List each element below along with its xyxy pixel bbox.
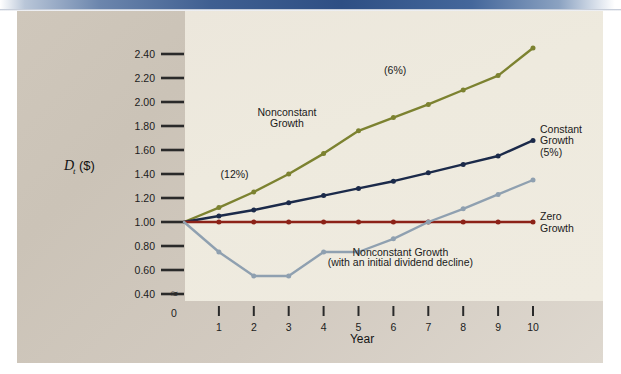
series-label-zero-growth: Zero: [540, 210, 562, 222]
series-data-point: [496, 192, 501, 197]
data-series: [184, 46, 536, 223]
x-axis-tick-label: 4: [321, 321, 327, 333]
series-data-point: [461, 220, 466, 225]
y-axis-title-units: ($): [79, 158, 95, 173]
series-data-point: [251, 208, 256, 213]
axis-break-symbol: ≈: [170, 286, 177, 301]
series-data-point: [321, 250, 326, 255]
series-data-point: [531, 138, 536, 143]
series-data-point: [321, 193, 326, 198]
series-data-point: [391, 236, 396, 241]
series-label-zero-growth: Growth: [540, 222, 574, 234]
chart-annotation-rate-12: (12%): [221, 168, 249, 180]
series-line: [184, 48, 533, 222]
x-axis-tick-label: 9: [495, 321, 501, 333]
series-data-point: [461, 206, 466, 211]
series-data-point: [531, 46, 536, 51]
series-data-point: [251, 274, 256, 279]
y-axis-tick-label: 1.20: [135, 192, 156, 204]
series-data-point: [531, 178, 536, 183]
x-axis-tick-label: 3: [286, 321, 292, 333]
series-data-point: [496, 73, 501, 78]
series-data-point: [286, 274, 291, 279]
series-data-point: [216, 220, 221, 225]
series-data-point: [461, 88, 466, 93]
x-axis-title: Year: [350, 332, 374, 346]
series-line: [184, 140, 533, 222]
x-axis-tick-label: 2: [251, 321, 257, 333]
series-data-point: [356, 128, 361, 133]
series-label-constant-growth: Growth: [540, 134, 574, 146]
series-data-point: [391, 179, 396, 184]
series-data-point: [391, 220, 396, 225]
x-axis-tick-labels: 12345678910: [216, 321, 539, 333]
y-axis-tick-label: 0.60: [135, 264, 156, 276]
y-axis-tick-label: 2.00: [135, 96, 156, 108]
series-data-point: [461, 162, 466, 167]
series-data-point: [286, 220, 291, 225]
series-data-point: [321, 151, 326, 156]
series-data-point: [426, 220, 431, 225]
annotation-layer: (12%)(6%)NonconstantGrowthNonconstant Gr…: [221, 64, 473, 267]
series-data-point: [356, 220, 361, 225]
series-data-point: [216, 205, 221, 210]
series-data-point: [496, 154, 501, 159]
x-axis-zero-label: 0: [171, 307, 177, 319]
series-data-point: [426, 170, 431, 175]
series-data-point: [356, 186, 361, 191]
series-data-point: [321, 220, 326, 225]
chart-annotation-decline-label-line2: (with an initial dividend decline): [328, 256, 473, 268]
series-data-point: [391, 115, 396, 120]
y-axis-tick-label: 2.40: [135, 48, 156, 60]
series-label-constant-growth: (5%): [540, 146, 562, 158]
y-axis-title: D t ($): [63, 158, 95, 176]
series-label-constant-growth: Constant: [540, 123, 582, 135]
y-axis-title-subscript: t: [73, 166, 76, 176]
x-axis-tick-label: 7: [425, 321, 431, 333]
series-data-point: [496, 220, 501, 225]
x-axis-tick-label: 1: [216, 321, 222, 333]
y-axis-tick-label: 1.60: [135, 144, 156, 156]
y-axis-tick-label: 0.80: [135, 240, 156, 252]
chart-annotation-nonconstant-growth-label-line2: Growth: [270, 117, 304, 129]
y-axis-tick-label: 0.40: [135, 288, 156, 300]
series-data-point: [216, 214, 221, 219]
slide-canvas: 2.402.202.001.801.601.401.201.000.800.60…: [0, 0, 621, 374]
data-series: [184, 220, 536, 225]
series-data-point: [531, 220, 536, 225]
y-axis-tick-label: 1.40: [135, 168, 156, 180]
x-axis-tick-label: 6: [390, 321, 396, 333]
series-data-point: [286, 172, 291, 177]
y-axis-tick-marks: [161, 54, 184, 294]
chart-annotation-rate-6: (6%): [384, 64, 406, 76]
y-axis-tick-label: 2.20: [135, 72, 156, 84]
series-data-point: [251, 190, 256, 195]
x-axis-tick-label: 10: [527, 321, 539, 333]
series-data-point: [216, 250, 221, 255]
dividend-growth-line-chart: 2.402.202.001.801.601.401.201.000.800.60…: [0, 0, 621, 374]
x-axis-tick-marks: [219, 306, 533, 316]
series-label-layer: ConstantGrowth(5%)ZeroGrowth: [540, 123, 582, 234]
series-data-point: [251, 220, 256, 225]
x-axis-tick-label: 8: [460, 321, 466, 333]
y-axis-tick-label: 1.00: [135, 216, 156, 228]
series-data-point: [286, 200, 291, 205]
series-data-point: [426, 102, 431, 107]
y-axis-tick-label: 1.80: [135, 120, 156, 132]
y-axis-tick-labels: 2.402.202.001.801.601.401.201.000.800.60…: [135, 48, 156, 300]
data-series: [184, 138, 536, 222]
data-series-layer: [184, 46, 536, 279]
